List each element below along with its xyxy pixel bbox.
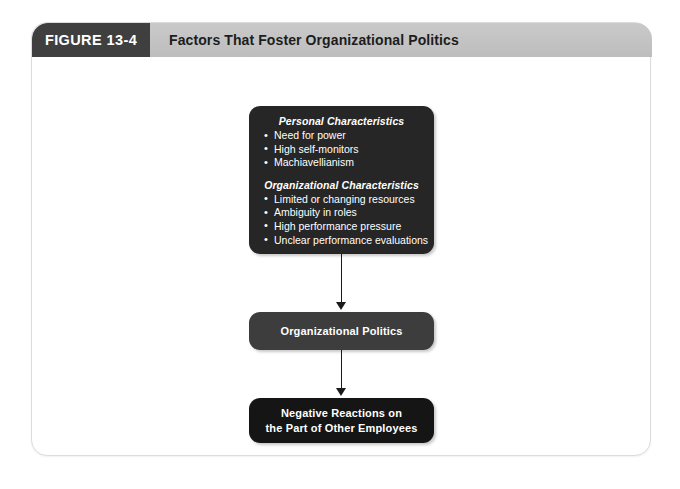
node-label: Negative Reactions on the Part of Other … [266,406,418,435]
figure-title: Factors That Foster Organizational Polit… [169,23,459,57]
node-organizational-politics: Organizational Politics [249,312,434,350]
list-item: High performance pressure [264,220,424,234]
list-item: Ambiguity in roles [264,206,424,220]
figure-number-tab: FIGURE 13-4 [32,23,150,57]
connector-line-factors-to-politics [341,254,342,304]
node-negative-reactions: Negative Reactions on the Part of Other … [249,398,434,443]
list-item: Limited or changing resources [264,193,424,207]
list-organizational-characteristics: Limited or changing resources Ambiguity … [259,193,424,247]
list-item: Unclear performance evaluations [264,234,424,248]
list-personal-characteristics: Need for power High self-monitors Machia… [259,129,424,170]
list-item: Machiavellianism [264,156,424,170]
node-label: Organizational Politics [280,325,402,337]
list-item: High self-monitors [264,143,424,157]
connector-line-politics-to-reactions [341,350,342,390]
group-heading-personal: Personal Characteristics [259,115,424,127]
list-item: Need for power [264,129,424,143]
figure-frame: FIGURE 13-4 Factors That Foster Organiza… [31,22,651,456]
figure-header: FIGURE 13-4 Factors That Foster Organiza… [32,23,652,57]
figure-number-label: FIGURE 13-4 [45,32,137,48]
node-factors: Personal Characteristics Need for power … [249,106,434,254]
arrowhead-icon [336,388,346,396]
flowchart-diagram: Personal Characteristics Need for power … [32,57,652,456]
arrowhead-icon [336,302,346,310]
group-heading-organizational: Organizational Characteristics [259,179,424,191]
